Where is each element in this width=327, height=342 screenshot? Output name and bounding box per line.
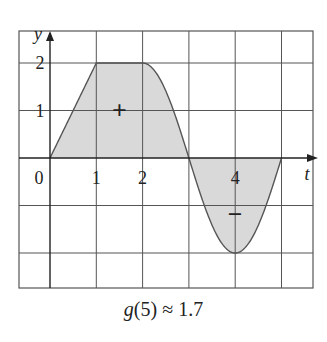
x-tick-label: 4 [231,168,240,188]
x-tick-label: 1 [92,168,101,188]
caption-arg: (5) [134,298,157,320]
y-axis-label: y [32,24,42,44]
caption-value: 1.7 [178,298,203,320]
chart-figure: 012412yt+− g(5) ≈ 1.7 [0,0,327,342]
y-tick-label: 2 [36,53,45,73]
caption-approx: ≈ [162,298,173,320]
y-tick-label: 1 [36,101,45,121]
minus-sign-annotation: − [228,200,243,229]
x-tick-label: 2 [138,168,147,188]
x-axis-label: t [304,164,310,184]
caption-func: g [124,298,134,320]
y-axis-arrow-icon [46,31,54,41]
plus-sign-annotation: + [112,96,127,125]
x-tick-label: 0 [35,168,44,188]
plot-area: 012412yt+− [0,0,327,300]
caption: g(5) ≈ 1.7 [0,298,327,321]
